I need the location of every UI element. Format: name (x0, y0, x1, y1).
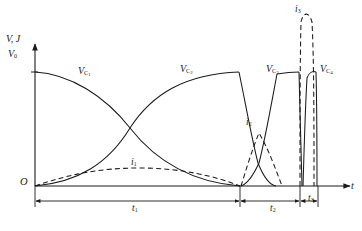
curve-i3 (300, 14, 314, 186)
vc4-label: VC4 (320, 63, 333, 75)
curve-vc2-fall (239, 72, 276, 186)
curve-vc3-top (277, 72, 299, 74)
y-axis-label: V, J (6, 33, 20, 44)
t2-interval-label: t2 (270, 203, 276, 213)
vc2-label: VC2 (180, 63, 193, 75)
y-origin-label: V0 (8, 48, 17, 59)
t3-interval-label: t3 (308, 193, 314, 203)
i1-label: i1 (131, 157, 137, 167)
x-axis-label: t (351, 180, 354, 191)
waveform-figure: V, J V0 O t VC1 VC2 VC3 VC4 i1 i2 i3 t1 … (0, 0, 362, 231)
i3-label: i3 (295, 4, 301, 14)
curve-vc4-fall (316, 72, 317, 186)
curve-i1 (35, 168, 240, 186)
curve-i2 (241, 133, 282, 186)
origin-label: O (20, 176, 28, 187)
t1-interval-label: t1 (132, 203, 138, 213)
curve-vc1 (35, 72, 240, 186)
curve-vc2-rise (35, 72, 239, 186)
i2-label: i2 (246, 117, 252, 127)
vc1-label: VC1 (78, 65, 91, 77)
vc3-label: VC3 (266, 63, 279, 75)
